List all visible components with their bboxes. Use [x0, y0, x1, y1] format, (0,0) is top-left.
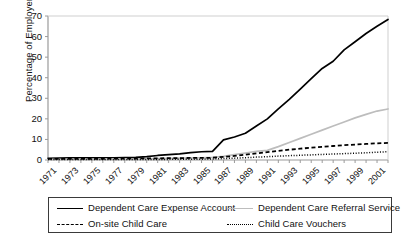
chart-legend: Dependent Care Expense AccountDependent …: [48, 197, 392, 233]
legend-item: Dependent Care Expense Account: [57, 202, 235, 213]
dashed-black-line-icon: [57, 219, 83, 228]
legend-item-label: Dependent Care Referral Service: [258, 202, 400, 213]
series-line-1: [48, 109, 388, 159]
dotted-black-line-icon: [227, 219, 253, 228]
solid-gray-line-icon: [227, 203, 253, 212]
legend-item-label: Dependent Care Expense Account: [88, 202, 235, 213]
solid-black-line-icon: [57, 203, 83, 212]
legend-item: On-site Child Care: [57, 218, 167, 229]
series-line-0: [48, 20, 388, 159]
legend-item: Dependent Care Referral Service: [227, 202, 400, 213]
legend-item: Child Care Vouchers: [227, 218, 346, 229]
legend-item-label: Child Care Vouchers: [258, 218, 346, 229]
chart-container: Percentage of Employers 706050403020100 …: [0, 0, 405, 239]
legend-item-label: On-site Child Care: [88, 218, 167, 229]
